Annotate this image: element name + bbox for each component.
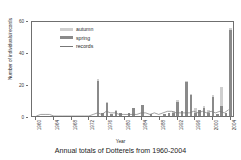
x-axis-tick-labels: 1960196419681972197619801984198819921996… — [31, 120, 234, 138]
x-axis-label: Year — [0, 139, 241, 145]
records-polyline — [36, 110, 228, 116]
legend-item-records: records — [60, 42, 116, 51]
y-tick-label: 60 — [19, 19, 24, 24]
legend-swatch-records — [60, 46, 73, 47]
chart-figure: Number of individuals/records 0204060 au… — [0, 0, 241, 160]
x-tick-label: 1972 — [90, 120, 95, 130]
legend-label-records: records — [76, 43, 93, 49]
y-tick-label: 40 — [19, 51, 24, 56]
y-tick-label: 20 — [19, 83, 24, 88]
y-axis-label: Number of individuals/records — [8, 7, 14, 91]
x-tick-label: 2004 — [232, 120, 237, 130]
x-tick-label: 2000 — [214, 120, 219, 130]
plot-area: autumn spring records — [31, 21, 234, 117]
x-tick-label: 1964 — [55, 120, 60, 130]
y-tick-mark — [26, 53, 29, 54]
x-tick-label: 1980 — [126, 120, 131, 130]
chart-title: Annual totals of Dotterels from 1960-200… — [0, 147, 241, 156]
y-tick-mark — [26, 117, 29, 118]
y-tick-mark — [26, 85, 29, 86]
legend-item-spring: spring — [60, 34, 116, 43]
x-tick-label: 1960 — [37, 120, 42, 130]
legend-label-spring: spring — [76, 35, 90, 41]
legend-label-autumn: autumn — [76, 26, 93, 32]
x-tick-label: 1968 — [73, 120, 78, 130]
x-tick-label: 1988 — [161, 120, 166, 130]
y-tick-label: 0 — [21, 115, 24, 120]
x-tick-label: 1992 — [179, 120, 184, 130]
x-tick-label: 1984 — [143, 120, 148, 130]
legend-swatch-spring — [60, 36, 73, 39]
y-axis-ticks: 0204060 — [16, 21, 28, 117]
x-tick-label: 1996 — [196, 120, 201, 130]
y-tick-mark — [26, 21, 29, 22]
chart-legend: autumn spring records — [60, 25, 116, 51]
legend-item-autumn: autumn — [60, 25, 116, 34]
x-tick-label: 1976 — [108, 120, 113, 130]
legend-swatch-autumn — [60, 28, 73, 31]
